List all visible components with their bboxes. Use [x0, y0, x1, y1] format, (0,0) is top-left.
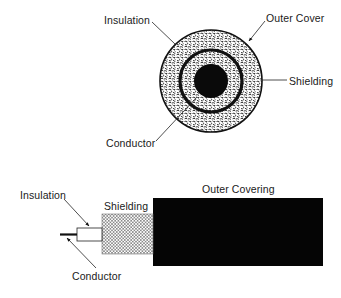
- insulation-leader-line: [152, 22, 175, 44]
- conductor-leader-arrow: [67, 238, 96, 268]
- side-insulation-label: Insulation: [20, 189, 66, 201]
- shielding-label: Shielding: [289, 75, 333, 87]
- side-view: [60, 198, 323, 268]
- outer-covering-jacket: [153, 198, 323, 266]
- cross-section-view: [152, 21, 287, 141]
- conductor-core: [194, 64, 228, 98]
- outer-cover-leader-arrow: [249, 21, 265, 41]
- side-conductor-label: Conductor: [72, 270, 121, 282]
- insulation-leader-arrow: [64, 199, 89, 226]
- insulation-label: Insulation: [104, 14, 150, 26]
- conductor-label: Conductor: [106, 137, 155, 149]
- insulation-sleeve: [77, 228, 102, 241]
- coaxial-cable-diagram: [0, 0, 341, 298]
- side-shielding-label: Shielding: [104, 200, 148, 212]
- outer-cover-label: Outer Cover: [266, 12, 324, 24]
- side-outer-covering-label: Outer Covering: [202, 183, 275, 195]
- shielding-braid: [102, 214, 153, 254]
